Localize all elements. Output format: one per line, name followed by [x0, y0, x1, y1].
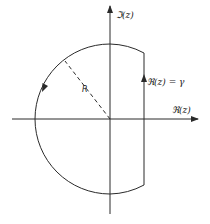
vertical-axis-label: ℑ(z): [116, 10, 134, 20]
horizontal-axis-label: ℜ(z): [172, 105, 191, 115]
arc-arrow-icon: [42, 83, 48, 92]
contour-diagram: R ℑ(z) ℜ(z) = γ ℜ(z): [0, 0, 210, 224]
line-label: ℜ(z) = γ: [147, 77, 185, 87]
radius-label: R: [82, 85, 88, 94]
